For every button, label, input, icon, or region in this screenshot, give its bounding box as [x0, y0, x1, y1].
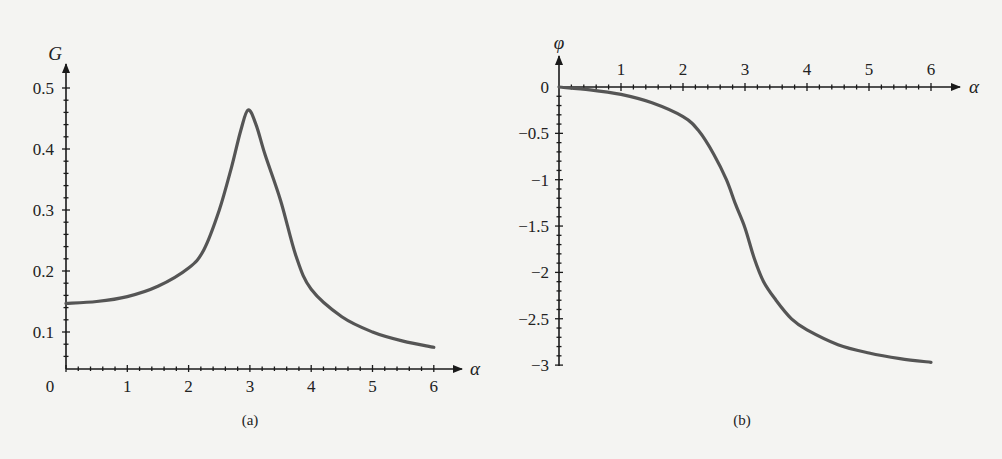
x-axis-label-b: α — [969, 76, 980, 97]
y-tick-label-b: −0.5 — [518, 124, 549, 143]
chart-panel-b: 1234560−0.5−1−1.5−2−2.5−3 φ α (b) — [518, 32, 980, 429]
caption-b: (b) — [733, 412, 751, 429]
y-tick-label-b: −3 — [531, 356, 549, 375]
y-tick-label-a: 0.3 — [33, 201, 54, 220]
y-axis-label-b: φ — [554, 32, 565, 53]
y-tick-label-b: −1 — [531, 171, 549, 190]
chart-canvas: 01234560.10.20.30.40.5 G α (a) 1234560−0… — [0, 0, 1002, 459]
x-tick-label-a: 1 — [123, 377, 132, 396]
x-tick-label-a: 5 — [368, 377, 377, 396]
gain-curve — [66, 110, 434, 347]
x-tick-label-a: 6 — [430, 377, 439, 396]
tick-labels-b: 1234560−0.5−1−1.5−2−2.5−3 — [518, 60, 935, 375]
y-axis-label-a: G — [48, 43, 62, 64]
y-tick-label-b: 0 — [541, 78, 550, 97]
x-tick-label-b: 4 — [803, 60, 812, 79]
x-tick-label-a: 2 — [184, 377, 193, 396]
tick-labels-a: 01234560.10.20.30.40.5 — [33, 79, 438, 396]
y-tick-label-a: 0.5 — [33, 79, 54, 98]
y-tick-label-a: 0.4 — [33, 140, 55, 159]
x-tick-label-b: 2 — [679, 60, 688, 79]
caption-a: (a) — [242, 412, 259, 429]
chart-panel-a: 01234560.10.20.30.40.5 G α (a) — [33, 43, 481, 429]
x-tick-label-a: 3 — [246, 377, 255, 396]
ticks-a — [62, 88, 434, 372]
y-tick-label-a: 0.2 — [33, 262, 54, 281]
figure: 01234560.10.20.30.40.5 G α (a) 1234560−0… — [0, 0, 1002, 459]
x-tick-label-b: 3 — [741, 60, 750, 79]
axes-b — [559, 56, 960, 366]
y-tick-label-b: −1.5 — [518, 217, 549, 236]
y-tick-label-b: −2 — [531, 263, 549, 282]
axes-a — [66, 64, 462, 369]
x-axis-label-a: α — [470, 358, 481, 379]
phase-curve — [559, 87, 931, 362]
x-tick-label-b: 5 — [865, 60, 874, 79]
y-tick-label-a: 0.1 — [33, 323, 54, 342]
x-tick-label-a: 4 — [307, 377, 316, 396]
y-tick-label-b: −2.5 — [518, 310, 549, 329]
x-tick-label-a: 0 — [46, 377, 55, 396]
x-tick-label-b: 6 — [927, 60, 936, 79]
x-tick-label-b: 1 — [617, 60, 626, 79]
